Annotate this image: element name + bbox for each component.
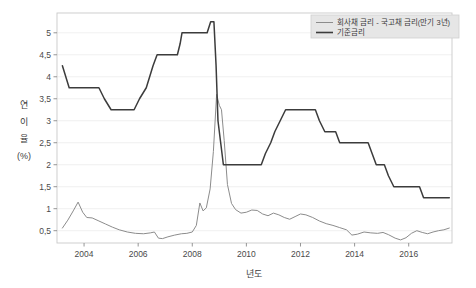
- y-axis-title-char-2: 율: [20, 134, 28, 144]
- y-tick-label-9: 5: [46, 28, 51, 38]
- interest-rate-line-chart: 2004200620082010201220142016 0,511,522,5…: [0, 0, 476, 288]
- x-axis-title: 년도: [246, 269, 262, 279]
- y-tick-label-1: 1: [46, 204, 51, 214]
- chart-figure: 2004200620082010201220142016 0,511,522,5…: [0, 0, 476, 288]
- x-tick-label-3: 2010: [237, 249, 256, 259]
- y-tick-label-6: 3,5: [39, 94, 51, 104]
- legend-label-0: 회사채 금리 - 국고채 금리(만기 3년): [337, 17, 451, 27]
- y-tick-label-0: 0,5: [39, 226, 51, 236]
- y-axis-title-char-1: 이: [20, 117, 28, 127]
- y-tick-label-3: 2: [46, 160, 51, 170]
- y-axis-title-char-3: (%): [17, 151, 31, 161]
- x-tick-label-4: 2012: [291, 249, 310, 259]
- x-tick-label-2: 2008: [183, 249, 202, 259]
- legend-label-1: 기준금리: [337, 28, 365, 37]
- y-tick-label-2: 1,5: [39, 182, 51, 192]
- x-tick-label-1: 2006: [129, 249, 148, 259]
- x-tick-label-5: 2014: [345, 249, 364, 259]
- y-axis-title-char-0: 연: [20, 100, 28, 110]
- x-tick-label-0: 2004: [75, 249, 94, 259]
- chart-legend: 회사채 금리 - 국고채 금리(만기 3년)기준금리: [311, 15, 459, 38]
- y-tick-label-8: 4,5: [39, 50, 51, 60]
- y-tick-label-4: 2,5: [39, 138, 51, 148]
- y-tick-label-7: 4: [46, 72, 51, 82]
- x-tick-label-6: 2016: [399, 249, 418, 259]
- figure-background: [0, 0, 476, 288]
- y-tick-label-5: 3: [46, 116, 51, 126]
